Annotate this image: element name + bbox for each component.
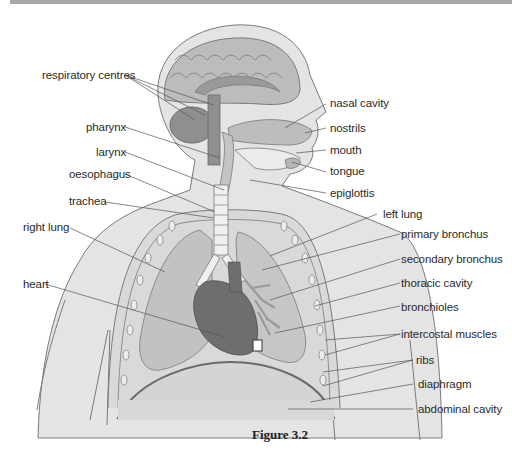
label-right-lung: right lung <box>23 221 69 234</box>
abdominal-region <box>118 400 334 420</box>
label-pharynx: pharynx <box>86 121 126 134</box>
figure-caption: Figure 3.2 <box>252 427 308 443</box>
respiratory-system-figure: respiratory centres pharynx larynx oesop… <box>0 0 512 455</box>
label-tongue: tongue <box>330 165 365 178</box>
label-nostrils: nostrils <box>330 122 366 135</box>
label-primary-bronchus: primary bronchus <box>401 228 488 241</box>
trachea-shape <box>214 185 228 255</box>
label-larynx: larynx <box>96 146 126 159</box>
inset-marker-box <box>253 340 262 351</box>
label-abdominal-cavity: abdominal cavity <box>418 403 502 416</box>
cerebellum <box>170 107 214 143</box>
label-secondary-bronchus: secondary bronchus <box>401 253 503 266</box>
label-respiratory-centres: respiratory centres <box>42 69 135 82</box>
label-thoracic-cavity: thoracic cavity <box>401 277 472 290</box>
label-ribs: ribs <box>416 354 434 367</box>
label-trachea: trachea <box>69 195 107 208</box>
label-oesophagus: oesophagus <box>69 168 131 181</box>
label-diaphragm: diaphragm <box>418 378 471 391</box>
label-mouth: mouth <box>330 144 361 157</box>
label-intercostal-muscles: intercostal muscles <box>401 328 497 341</box>
label-bronchioles: bronchioles <box>401 301 459 314</box>
nasal-cavity-shape <box>228 120 312 145</box>
label-nasal-cavity: nasal cavity <box>330 97 389 110</box>
label-left-lung: left lung <box>383 208 422 221</box>
label-heart: heart <box>23 278 49 291</box>
label-epiglottis: epiglottis <box>330 187 374 200</box>
